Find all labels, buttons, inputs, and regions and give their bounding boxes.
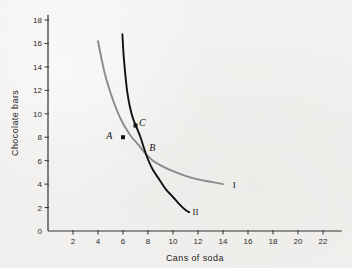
curves: III: [98, 34, 236, 216]
curve-label-I: I: [233, 180, 236, 190]
x-axis-tick-label: 16: [244, 237, 253, 246]
y-axis-tick-label: 6: [38, 157, 43, 166]
chart-svg: 024681012141618246810121416182022 III AB…: [0, 0, 352, 268]
point-label-A: A: [105, 130, 113, 141]
point-label-B: B: [149, 142, 155, 153]
indifference-curve-II: [122, 34, 189, 212]
y-axis-tick-label: 18: [33, 16, 42, 25]
axis-titles: Cans of sodaChocolate bars: [10, 90, 224, 263]
x-axis-tick-label: 4: [96, 237, 101, 246]
point-label-C: C: [139, 117, 146, 128]
x-axis-tick-label: 14: [219, 237, 228, 246]
x-axis-tick-label: 10: [169, 237, 178, 246]
y-axis-title: Chocolate bars: [10, 90, 20, 156]
indifference-curve-figure: 024681012141618246810121416182022 III AB…: [0, 0, 352, 268]
y-axis-tick-label: 10: [33, 110, 42, 119]
y-axis-tick-label: 4: [38, 180, 43, 189]
x-axis-tick-label: 8: [146, 237, 151, 246]
x-axis-tick-label: 20: [294, 237, 303, 246]
data-point-marker-A: [121, 135, 125, 139]
y-axis-tick-label: 8: [38, 133, 43, 142]
y-axis-tick-label: 14: [33, 63, 42, 72]
x-axis-title: Cans of soda: [166, 253, 224, 263]
x-axis-tick-label: 22: [319, 237, 328, 246]
x-axis-tick-label: 12: [194, 237, 203, 246]
y-axis-tick-label: 16: [33, 39, 42, 48]
data-point-marker-C: [134, 124, 138, 128]
x-axis-tick-label: 2: [71, 237, 76, 246]
x-axis-tick-label: 18: [269, 237, 278, 246]
curve-label-II: II: [193, 207, 199, 217]
y-axis-tick-label: 12: [33, 86, 42, 95]
indifference-curve-I: [98, 41, 223, 184]
y-axis-tick-label: 2: [38, 204, 43, 213]
y-axis-tick-label: 0: [38, 227, 43, 236]
x-axis-tick-label: 6: [121, 237, 126, 246]
